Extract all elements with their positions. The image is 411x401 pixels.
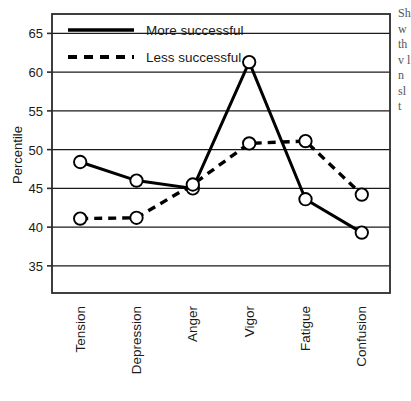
data-point-confusion (356, 188, 368, 200)
x-category-label-vigor: Vigor (242, 306, 257, 338)
x-category-label-tension: Tension (73, 306, 88, 353)
data-point-fatigue (299, 135, 311, 147)
data-point-vigor (243, 137, 255, 149)
data-point-vigor (243, 56, 255, 68)
data-point-confusion (356, 226, 368, 238)
y-tick-label-50: 50 (29, 143, 43, 158)
x-axis-category-labels: TensionDepressionAngerVigorFatigueConfus… (73, 305, 370, 374)
legend-label: More successful (146, 23, 244, 38)
y-tick-label-45: 45 (29, 181, 43, 196)
x-category-label-confusion: Confusion (354, 306, 369, 367)
data-point-depression (130, 174, 142, 186)
data-point-anger (187, 178, 199, 190)
page-side-text-fragment: Sh w th v l n sl t (398, 6, 411, 196)
data-point-tension (74, 212, 86, 224)
legend-label: Less successful (146, 50, 241, 65)
data-point-fatigue (299, 193, 311, 205)
y-axis-tick-labels: 35404550556065 (29, 26, 43, 274)
data-point-depression (130, 212, 142, 224)
y-tick-label-35: 35 (29, 259, 43, 274)
x-category-label-anger: Anger (185, 305, 200, 342)
y-axis-title: Percentile (10, 126, 25, 184)
x-category-label-fatigue: Fatigue (298, 306, 313, 351)
figure-container: 35404550556065 Percentile TensionDepress… (0, 0, 411, 401)
x-category-label-depression: Depression (129, 306, 144, 374)
y-tick-label-65: 65 (29, 26, 43, 41)
mood-profile-line-chart: 35404550556065 Percentile TensionDepress… (0, 0, 411, 401)
y-tick-label-55: 55 (29, 104, 43, 119)
data-point-tension (74, 156, 86, 168)
y-tick-label-60: 60 (29, 65, 43, 80)
y-tick-label-40: 40 (29, 220, 43, 235)
